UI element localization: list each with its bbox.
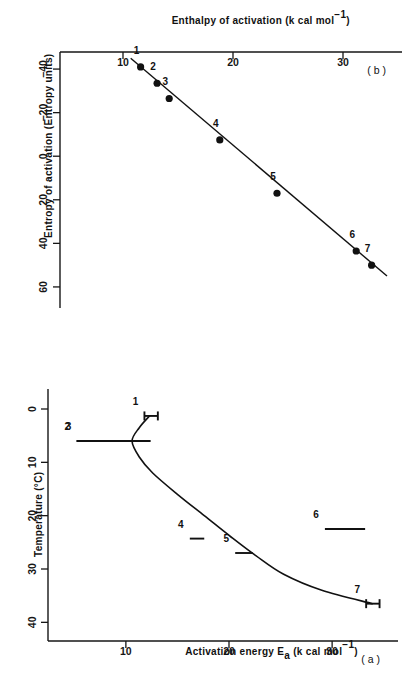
panel-a-plot-area: 102030 010203040 1234567 ( a ) Activatio… [0, 330, 416, 677]
panel-b-point-label: 4 [213, 118, 219, 129]
panel-a-point-label: 5 [223, 533, 229, 544]
panel-b-marker-dot [137, 63, 144, 70]
panel-b-point-label: 6 [349, 229, 355, 240]
figure-rotated-container: 102030 010203040 1234567 ( a ) Activatio… [0, 0, 416, 677]
panel-b-tag: ( b ) [367, 60, 386, 78]
panel-a-xtick-label: 40 [26, 616, 38, 628]
panel-b-ytick-label: 10 [117, 56, 129, 68]
panel-b-svg: 102030 −40−200204060 1234567 [0, 0, 416, 330]
panel-b-xlabel: Entropy of activation (Entropy units) [38, 54, 56, 238]
panel-b-xlabel-text: Entropy of activation (Entropy units) [43, 54, 54, 238]
panel-b-marker-dot [154, 80, 161, 87]
panel-b-ylabel-close: ) [346, 15, 350, 26]
panel-a-errorbar: 4 [178, 519, 204, 539]
panel-a-errorbar: 2 [65, 421, 140, 441]
panel-b-datapoint: 2 [150, 61, 160, 87]
panel-b-tag-text: ( b ) [367, 64, 386, 76]
panel-a-xtick-label: 0 [26, 406, 38, 412]
panel-a-point-label: 1 [133, 396, 139, 407]
panel-a-ylabel-main: Activation energy E [185, 646, 284, 657]
panel-b-marker-dot [368, 262, 375, 269]
panel-a-ylabel-units-sup: −1 [342, 639, 354, 650]
panel-b-ytick-label: 30 [337, 56, 349, 68]
panel-b-datapoint: 7 [365, 243, 375, 269]
panel-b-enthalpy-entropy: 102030 −40−200204060 1234567 ( b ) Entha… [0, 0, 416, 330]
panel-b-datapoint: 4 [213, 118, 223, 144]
panel-a-ylabel-units-close: ) [354, 646, 358, 657]
panel-b-marker-dot [216, 136, 223, 143]
panel-b-plot-area: 102030 −40−200204060 1234567 ( b ) Entha… [0, 0, 416, 330]
panel-a-ytick-label: 10 [120, 645, 132, 657]
panel-b-point-label: 7 [365, 243, 371, 254]
panel-a-errorbar: 1 [133, 396, 158, 421]
panel-a-svg: 102030 010203040 1234567 [0, 330, 416, 677]
panel-b-xtick-label: 60 [37, 281, 49, 293]
panel-b-marker-dot [166, 95, 173, 102]
panel-b-marker-dot [353, 247, 360, 254]
panel-b-datapoint: 1 [134, 45, 144, 71]
panel-b-xtick-label: 40 [37, 237, 49, 249]
panel-b-point-label: 3 [162, 76, 168, 87]
panel-a-point-label: 4 [178, 519, 184, 530]
panel-a-point-label: 7 [354, 584, 360, 595]
panel-a-errorbar: 3 [66, 421, 151, 441]
panel-b-ylabel: Enthalpy of activation (k cal mol−1) [172, 9, 350, 28]
panel-b-ytick-label: 20 [227, 56, 239, 68]
panel-a-tag-text: ( a ) [361, 653, 380, 665]
panel-b-point-label: 1 [134, 45, 140, 56]
panel-b-point-label: 5 [270, 171, 276, 182]
panel-a-tag: ( a ) [361, 649, 380, 667]
panel-a-xtick-label: 10 [26, 456, 38, 468]
panel-b-fit-line [131, 58, 387, 276]
panel-b-point-label: 2 [150, 61, 156, 72]
panel-b-ylabel-sup: −1 [334, 9, 346, 20]
panel-a-ylabel-units-open: (k cal mol [293, 646, 342, 657]
panel-a-point-label: 3 [66, 421, 72, 432]
panel-b-datapoint: 6 [349, 229, 359, 255]
panel-a-xlabel-text: Temperature (°C) [33, 472, 44, 557]
panel-b-fitline-group [131, 58, 387, 276]
panel-a-xtick-label: 30 [26, 563, 38, 575]
panel-b-ylabel-main: Enthalpy of activation (k cal mol [172, 15, 335, 26]
panel-a-errorbar: 7 [354, 584, 379, 609]
panel-b-marker-dot [273, 190, 280, 197]
panel-a-ylabel: Activation energy Ea (k cal mol−1) [185, 639, 358, 661]
panel-a-data-curve [132, 416, 372, 604]
panel-a-errorbar: 6 [313, 509, 365, 529]
panel-a-point-label: 6 [313, 509, 319, 520]
panel-a-errorbar-group: 1234567 [65, 396, 380, 608]
panel-a-activation-energy: 102030 010203040 1234567 ( a ) Activatio… [0, 330, 416, 677]
panel-a-xlabel: Temperature (°C) [28, 472, 46, 557]
panel-a-curve-group [132, 416, 372, 604]
